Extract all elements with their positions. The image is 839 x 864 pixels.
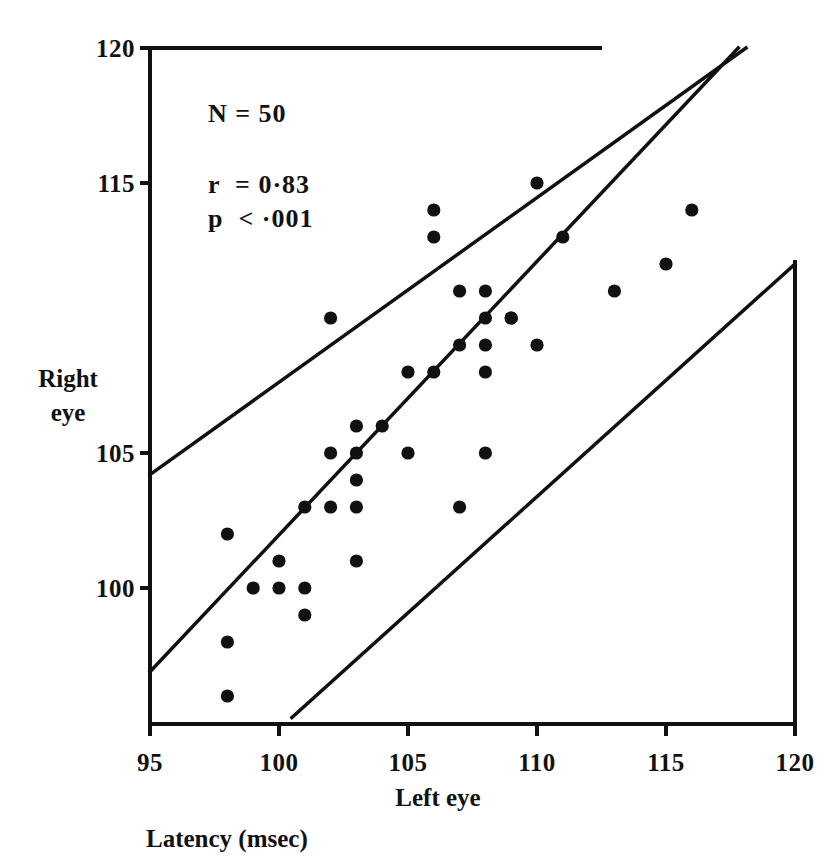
data-point (221, 689, 234, 702)
plot-canvas (0, 0, 839, 864)
scatter-plot-figure: 120 115 105 100 95 100 105 110 115 120 L… (0, 0, 839, 864)
x-tick-label-120: 120 (755, 750, 835, 775)
data-point (453, 500, 466, 513)
y-axis-title-line2: eye (8, 400, 128, 425)
x-tick-label-95: 95 (110, 750, 190, 775)
data-point (221, 635, 234, 648)
data-point (427, 230, 440, 243)
annotation-correlation: r = 0·83 (208, 172, 310, 198)
data-point (221, 527, 234, 540)
data-point (453, 338, 466, 351)
data-point (427, 203, 440, 216)
data-point (298, 608, 311, 621)
data-point (272, 581, 285, 594)
annotation-sample-size: N = 50 (208, 101, 287, 127)
data-point (530, 338, 543, 351)
y-tick-label-120: 120 (60, 36, 135, 61)
axis-ticks (140, 48, 795, 736)
data-point (401, 365, 414, 378)
x-axis-title: Left eye (348, 785, 528, 810)
y-tick-label-105: 105 (60, 441, 135, 466)
data-point (350, 446, 363, 459)
data-point (505, 311, 518, 324)
data-point (659, 257, 672, 270)
x-tick-label-115: 115 (626, 750, 706, 775)
annotation-pvalue: p < ·001 (208, 206, 313, 232)
data-point (247, 581, 260, 594)
data-point (298, 581, 311, 594)
x-tick-label-110: 110 (497, 750, 577, 775)
data-point (479, 284, 492, 297)
data-point (350, 473, 363, 486)
y-tick-label-100: 100 (60, 576, 135, 601)
data-point (479, 311, 492, 324)
x-tick-label-100: 100 (239, 750, 319, 775)
reference-lines (150, 48, 795, 718)
y-axis-title-line1: Right (8, 366, 128, 391)
data-point (556, 230, 569, 243)
data-point (324, 311, 337, 324)
data-point (479, 338, 492, 351)
y-tick-label-115: 115 (60, 171, 135, 196)
x-tick-label-105: 105 (368, 750, 448, 775)
data-points (221, 176, 699, 702)
data-point (350, 419, 363, 432)
data-point (350, 554, 363, 567)
data-point (427, 365, 440, 378)
data-point (685, 203, 698, 216)
lower-limit-line (292, 264, 795, 718)
data-point (479, 365, 492, 378)
data-point (401, 446, 414, 459)
data-point (530, 176, 543, 189)
data-point (324, 500, 337, 513)
axes (150, 48, 795, 724)
data-point (608, 284, 621, 297)
data-point (453, 284, 466, 297)
data-point (479, 446, 492, 459)
data-point (350, 500, 363, 513)
x-axis-units-label: Latency (msec) (146, 826, 308, 851)
data-point (298, 500, 311, 513)
data-point (272, 554, 285, 567)
data-point (376, 419, 389, 432)
data-point (324, 446, 337, 459)
